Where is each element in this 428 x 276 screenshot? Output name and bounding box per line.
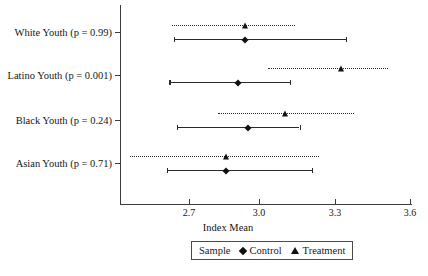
y-axis-label-white-youth: White Youth (p = 0.99) (0, 27, 112, 38)
interval-cap-control-latino-youth-p-0-001-high (290, 80, 291, 85)
diamond-marker-icon-control-latino-youth-p-0-001 (235, 79, 242, 86)
y-axis-label-black-youth: Black Youth (p = 0.24) (0, 115, 112, 126)
interval-line-control-white-youth-p-0-99 (174, 39, 346, 40)
triangle-marker-icon (291, 247, 299, 254)
y-tick-asian-youth (115, 163, 120, 164)
interval-cap-control-black-youth-p-0-24-low (177, 125, 178, 130)
forest-plot-chart: White Youth (p = 0.99) Latino Youth (p =… (0, 0, 428, 276)
interval-cap-control-white-youth-p-0-99-low (174, 37, 175, 42)
interval-line-control-asian-youth-p-0-71 (167, 170, 312, 171)
x-tick-label-3-6: 3.6 (390, 207, 428, 218)
x-tick-3-6 (410, 199, 411, 205)
legend-entry-treatment[interactable]: Treatment (291, 245, 346, 256)
x-tick-label-2-7: 2.7 (169, 207, 209, 218)
diamond-marker-icon-control-asian-youth-p-0-71 (222, 167, 229, 174)
x-tick-label-3-3: 3.3 (315, 207, 355, 218)
y-tick-latino-youth (115, 75, 120, 76)
legend-label-control: Control (250, 245, 282, 256)
x-tick-label-3-0: 3.0 (239, 207, 279, 218)
triangle-marker-icon-treatment-white-youth-p-0-99 (242, 22, 248, 28)
y-axis-label-latino-youth: Latino Youth (p = 0.001) (0, 70, 112, 81)
interval-cap-control-latino-youth-p-0-001-low (169, 80, 170, 85)
y-tick-black-youth (115, 120, 120, 121)
x-tick-3-3 (335, 199, 336, 205)
interval-line-control-latino-youth-p-0-001 (169, 82, 289, 83)
x-axis-title: Index Mean (0, 222, 428, 233)
interval-cap-control-black-youth-p-0-24-high (300, 125, 301, 130)
legend-title: Sample (199, 245, 231, 256)
interval-line-treatment-white-youth-p-0-99 (172, 25, 295, 26)
x-tick-2-7 (189, 199, 190, 205)
legend-label-treatment: Treatment (303, 245, 346, 256)
y-axis-line (120, 5, 121, 205)
diamond-marker-icon-control-black-youth-p-0-24 (244, 124, 251, 131)
interval-cap-control-asian-youth-p-0-71-high (312, 168, 313, 173)
y-tick-white-youth (115, 32, 120, 33)
triangle-marker-icon-treatment-asian-youth-p-0-71 (223, 153, 229, 159)
interval-line-control-black-youth-p-0-24 (177, 127, 300, 128)
legend-entry-control[interactable]: Control (240, 245, 282, 256)
x-axis-line (120, 204, 412, 205)
diamond-marker-icon (238, 246, 246, 254)
x-axis-title-text: Index Mean (203, 222, 253, 233)
interval-cap-control-asian-youth-p-0-71-low (167, 168, 168, 173)
diamond-marker-icon-control-white-youth-p-0-99 (242, 36, 249, 43)
x-tick-3-0 (259, 199, 260, 205)
interval-line-treatment-latino-youth-p-0-001 (268, 68, 388, 69)
interval-cap-control-white-youth-p-0-99-high (346, 37, 347, 42)
y-axis-label-asian-youth: Asian Youth (p = 0.71) (0, 158, 112, 169)
legend[interactable]: Sample Control Treatment (191, 241, 353, 260)
triangle-marker-icon-treatment-latino-youth-p-0-001 (338, 65, 344, 71)
triangle-marker-icon-treatment-black-youth-p-0-24 (282, 110, 288, 116)
